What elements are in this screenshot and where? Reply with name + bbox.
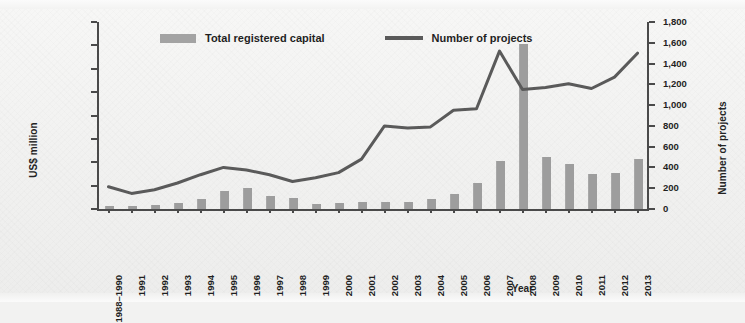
x-tick-mark: [361, 209, 363, 213]
x-tick-mark: [430, 209, 432, 213]
y-right-tick: [649, 104, 655, 106]
x-tick-mark: [568, 209, 570, 213]
x-tick-mark: [407, 209, 409, 213]
y-right-tick-label: 0: [663, 204, 668, 214]
x-tick-label: 2010: [573, 275, 584, 296]
y-right-tick-label: 1,400: [663, 59, 687, 69]
x-tick-label: 2003: [412, 275, 423, 296]
x-tick-mark: [453, 209, 455, 213]
y-right-tick: [649, 187, 655, 189]
x-tick-mark: [545, 209, 547, 213]
x-tick-label: 2011: [596, 275, 607, 296]
x-tick-mark: [637, 209, 639, 213]
x-tick-mark: [338, 209, 340, 213]
x-tick-label: 1998: [297, 275, 308, 296]
x-tick-mark: [200, 209, 202, 213]
figure-top-edge: [0, 0, 745, 9]
x-tick-mark: [223, 209, 225, 213]
y-axis-right-title: Number of projects: [717, 101, 728, 194]
x-tick-mark: [614, 209, 616, 213]
y-right-tick-label: 1,800: [663, 17, 687, 27]
x-tick-mark: [108, 209, 110, 213]
x-tick-label: 2009: [550, 275, 561, 296]
x-tick-label: 2004: [435, 275, 446, 296]
x-tick-mark: [177, 209, 179, 213]
line-series-number-of-projects: [97, 22, 649, 211]
y-right-tick: [649, 63, 655, 65]
y-right-tick-label: 1,600: [663, 38, 687, 48]
y-axis-left-title: US$ million: [28, 122, 39, 178]
y-right-tick-label: 400: [663, 162, 679, 172]
x-tick-label: 1997: [274, 275, 285, 296]
x-tick-mark: [246, 209, 248, 213]
x-tick-mark: [522, 209, 524, 213]
y-right-tick: [649, 166, 655, 168]
x-tick-mark: [591, 209, 593, 213]
y-right-tick-label: 1,200: [663, 79, 687, 89]
x-tick-label: 1995: [228, 275, 239, 296]
x-tick-label: 2008: [527, 275, 538, 296]
x-tick-label: 1993: [182, 275, 193, 296]
x-tick-mark: [269, 209, 271, 213]
x-tick-label: 2001: [366, 275, 377, 296]
x-tick-label: 1988–1990: [113, 275, 124, 323]
x-tick-mark: [131, 209, 133, 213]
projects-line-path: [109, 51, 638, 193]
y-right-tick: [649, 83, 655, 85]
x-tick-label: 1994: [205, 275, 216, 296]
x-axis-tick-labels: 1988–19901991199219931994199519961997199…: [97, 213, 649, 279]
x-tick-label: 1996: [251, 275, 262, 296]
y-right-tick: [649, 21, 655, 23]
x-tick-label: 2013: [642, 275, 653, 296]
x-tick-mark: [292, 209, 294, 213]
y-right-tick: [649, 208, 655, 210]
x-tick-label: 1991: [136, 275, 147, 296]
plot-area: 010,00020,00030,00040,00050,00060,00070,…: [97, 22, 649, 211]
x-tick-mark: [315, 209, 317, 213]
x-tick-mark: [154, 209, 156, 213]
x-tick-mark: [499, 209, 501, 213]
x-tick-mark: [384, 209, 386, 213]
x-tick-label: 1992: [159, 275, 170, 296]
x-tick-label: 2007: [504, 275, 515, 296]
x-tick-label: 2006: [481, 275, 492, 296]
y-right-tick-label: 200: [663, 183, 679, 193]
x-tick-label: 2005: [458, 275, 469, 296]
y-right-tick-label: 800: [663, 121, 679, 131]
x-tick-label: 1999: [320, 275, 331, 296]
x-tick-label: 2000: [343, 275, 354, 296]
y-right-tick-label: 1,000: [663, 100, 687, 110]
y-right-tick: [649, 146, 655, 148]
x-tick-label: 2012: [619, 275, 630, 296]
x-tick-mark: [476, 209, 478, 213]
y-right-tick: [649, 42, 655, 44]
y-right-tick-label: 600: [663, 142, 679, 152]
x-tick-label: 2002: [389, 275, 400, 296]
y-right-tick: [649, 125, 655, 127]
